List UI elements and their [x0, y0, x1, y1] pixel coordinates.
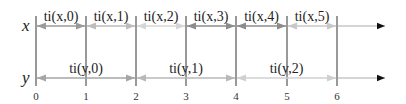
tick-label: 0	[33, 90, 39, 102]
tick-label: 3	[183, 90, 189, 102]
tick-label: 5	[284, 90, 290, 102]
interval-label: ti(x,3)	[194, 9, 229, 25]
tick-label: 4	[233, 90, 239, 102]
axis-label-x: x	[21, 16, 30, 35]
interval-label: ti(y,1)	[169, 61, 203, 77]
axis-label-y: y	[20, 68, 30, 87]
timeline-diagram: 0123456xti(x,0)ti(x,1)ti(x,2)ti(x,3)ti(x…	[0, 0, 406, 104]
interval-label: ti(x,0)	[44, 9, 79, 25]
interval-label: ti(x,4)	[244, 9, 279, 25]
interval-label: ti(x,2)	[144, 9, 179, 25]
interval-label: ti(x,5)	[295, 9, 330, 25]
interval-label: ti(y,0)	[69, 61, 103, 77]
interval-label: ti(x,1)	[94, 9, 129, 25]
tick-label: 1	[83, 90, 89, 102]
tick-label: 2	[133, 90, 139, 102]
tick-label: 6	[334, 90, 340, 102]
interval-label: ti(y,2)	[270, 61, 304, 77]
